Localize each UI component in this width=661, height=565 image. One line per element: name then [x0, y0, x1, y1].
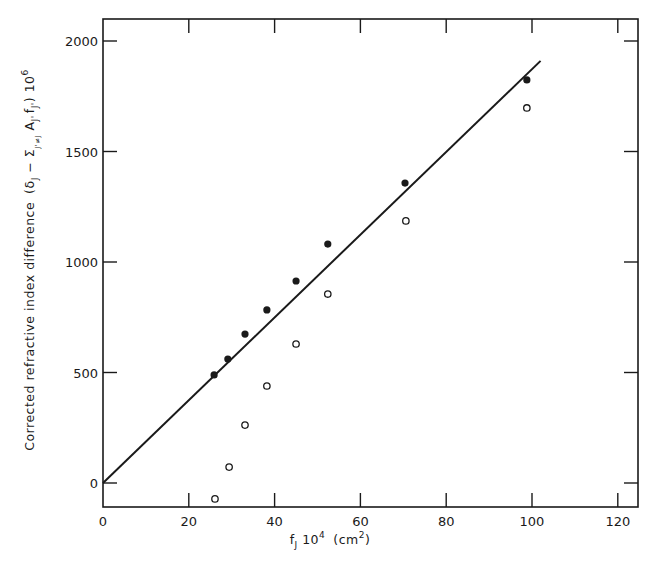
filled-point	[324, 240, 331, 247]
open-point	[212, 496, 218, 502]
filled-point	[224, 355, 231, 362]
filled-point	[292, 277, 299, 284]
filled-point	[523, 76, 530, 83]
x-tick-label: 20	[181, 514, 198, 529]
filled-point	[241, 330, 248, 337]
open-data-points	[212, 105, 530, 502]
open-point	[293, 341, 299, 347]
open-point	[226, 464, 232, 470]
filled-point	[211, 371, 218, 378]
y-tick-label: 1000	[65, 255, 98, 270]
x-tick-label: 0	[99, 514, 107, 529]
x-tick-label: 40	[266, 514, 283, 529]
x-tick-label: 80	[438, 514, 455, 529]
x-axis-label: fJ 104(cm2)	[290, 530, 371, 550]
open-point	[524, 105, 530, 111]
y-tick-label: 1500	[65, 145, 98, 160]
x-tick-label: 100	[520, 514, 545, 529]
y-tick-label: 2000	[65, 34, 98, 49]
chart: 020406080100120 0500100015002000 fJ 104(…	[0, 0, 661, 565]
open-point	[325, 291, 331, 297]
filled-point	[263, 306, 270, 313]
plot-border	[103, 19, 638, 507]
open-point	[403, 218, 409, 224]
x-axis-ticks: 020406080100120	[99, 19, 630, 529]
fit-line	[103, 61, 541, 483]
x-tick-label: 60	[352, 514, 369, 529]
fitted-line	[103, 61, 541, 483]
y-axis-ticks: 0500100015002000	[65, 34, 638, 491]
x-tick-label: 120	[605, 514, 630, 529]
y-tick-label: 500	[73, 366, 98, 381]
y-tick-label: 0	[90, 476, 98, 491]
open-point	[242, 422, 248, 428]
plot-frame	[103, 19, 638, 507]
filled-point	[401, 180, 408, 187]
open-point	[264, 383, 270, 389]
y-axis-label: Corrected refractive index difference(δJ…	[20, 69, 42, 451]
